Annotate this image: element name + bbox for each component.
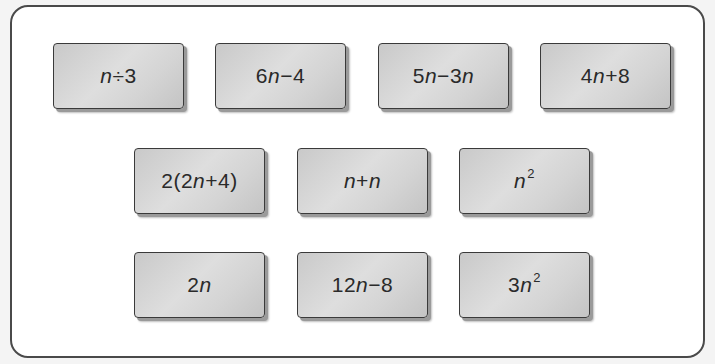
expression-text: 3n2 [508, 273, 541, 297]
expression-card[interactable]: 2n [134, 252, 265, 318]
expression-text: 12n−8 [332, 273, 394, 297]
expression-card[interactable]: 4n+8 [540, 43, 671, 109]
expression-text: 6n−4 [256, 64, 305, 88]
expression-card[interactable]: 5n−3n [378, 43, 509, 109]
expression-card[interactable]: 3n2 [459, 252, 590, 318]
expression-text: n2 [514, 169, 535, 193]
expression-text: n+n [344, 169, 381, 193]
expression-text: 2n [187, 273, 211, 297]
expression-card[interactable]: 6n−4 [215, 43, 346, 109]
expression-text: 2(2n+4) [161, 169, 238, 193]
expression-card[interactable]: n+n [297, 148, 428, 214]
expression-card[interactable]: 12n−8 [297, 252, 428, 318]
expression-card[interactable]: n÷3 [53, 43, 184, 109]
expression-card[interactable]: 2(2n+4) [134, 148, 265, 214]
expression-text: n÷3 [100, 64, 136, 88]
expression-text: 5n−3n [413, 64, 475, 88]
expression-card[interactable]: n2 [459, 148, 590, 214]
expression-text: 4n+8 [581, 64, 630, 88]
